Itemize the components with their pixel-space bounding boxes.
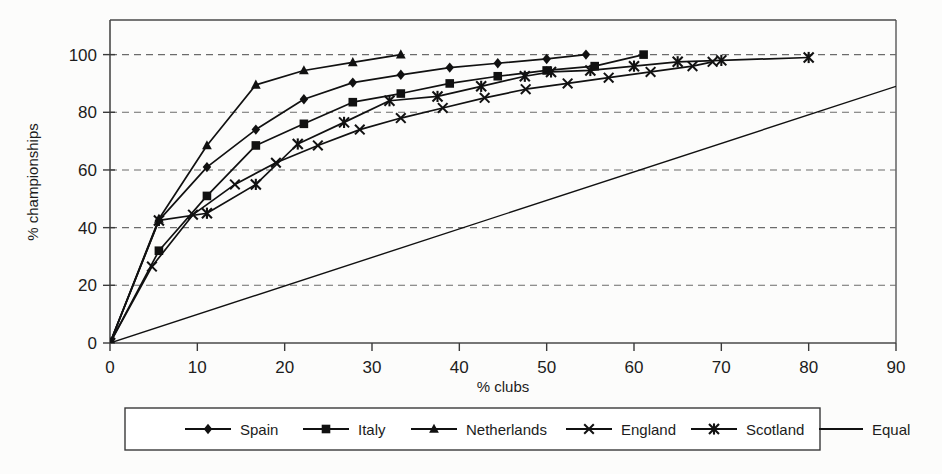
marker-diamond [445,62,454,72]
x-tick-label: 10 [188,358,207,377]
legend-label: England [621,421,676,438]
y-tick-label: 80 [78,103,97,122]
x-tick-label: 90 [887,358,906,377]
legend-item-equal[interactable]: Equal [819,421,910,438]
series-line [110,55,586,343]
marker-square [397,89,406,98]
marker-square [639,50,648,59]
marker-square [493,72,502,81]
series-netherlands [105,49,406,347]
y-tick-label: 40 [78,219,97,238]
x-tick-label: 60 [625,358,644,377]
legend-label: Scotland [746,421,804,438]
marker-square [348,98,357,107]
plot-frame [110,20,896,343]
marker-x [230,180,240,190]
x-tick-label: 70 [712,358,731,377]
y-tick-label: 0 [88,334,97,353]
x-tick-label: 50 [537,358,556,377]
marker-diamond [542,54,551,64]
y-tick-label: 20 [78,276,97,295]
series-england [105,57,717,348]
marker-square [445,79,454,88]
marker-x [313,141,323,151]
y-axis-title: % championships [24,123,41,241]
series-scotland [105,52,814,349]
x-tick-label: 40 [450,358,469,377]
x-axis-title: % clubs [477,378,530,395]
legend-label: Equal [872,421,910,438]
x-tick-label: 20 [275,358,294,377]
marker-diamond [349,77,358,87]
marker-square [252,141,261,150]
marker-x [355,125,365,135]
series-spain [106,49,590,348]
x-tick-label: 80 [799,358,818,377]
series-line [110,86,896,343]
series-line [110,55,644,343]
marker-square [300,120,309,129]
chart-figure: 020406080100 0102030405060708090 % clubs… [0,0,942,474]
data-series-layer [105,49,896,348]
legend-label: Netherlands [466,421,547,438]
x-tick-label: 0 [105,358,114,377]
marker-star [339,117,349,128]
marker-diamond [493,58,502,68]
series-italy [106,50,648,347]
marker-square [322,425,331,434]
marker-square [203,192,212,201]
marker-diamond [582,49,591,59]
marker-star [293,138,303,149]
series-line [110,57,809,343]
lorenz-curve-chart: 020406080100 0102030405060708090 % clubs… [0,0,942,474]
gridlines [110,55,896,286]
marker-diamond [300,94,309,104]
y-tick-label: 60 [78,161,97,180]
y-axis-ticks: 020406080100 [69,46,115,353]
marker-diamond [252,124,261,134]
y-tick-label: 100 [69,46,97,65]
legend: SpainItalyNetherlandsEnglandScotlandEqua… [125,408,910,450]
marker-star [251,179,261,190]
legend-label: Spain [240,421,278,438]
series-equal [110,86,896,343]
legend-label: Italy [358,421,386,438]
x-tick-label: 30 [363,358,382,377]
marker-triangle [396,49,406,58]
x-axis-ticks: 0102030405060708090 [105,343,905,377]
marker-diamond [397,70,406,80]
series-line [110,55,401,343]
